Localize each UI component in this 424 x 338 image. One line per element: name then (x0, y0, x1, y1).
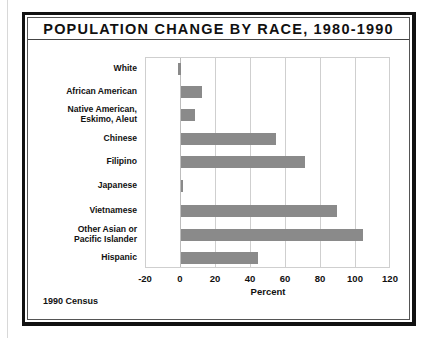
x-tick-label: 100 (347, 273, 363, 284)
category-label: Other Asian orPacific Islander (74, 224, 137, 244)
category-label: Vietnamese (89, 205, 137, 215)
bar (181, 252, 258, 264)
category-label: African American (66, 86, 137, 96)
bar (181, 229, 363, 241)
category-label: Filipino (106, 156, 137, 166)
bar (178, 63, 182, 75)
bar (181, 86, 202, 98)
page-edge-line (7, 0, 8, 338)
x-tick-label: -20 (138, 273, 152, 284)
category-label: Native American,Eskimo, Aleut (68, 104, 137, 124)
category-label: White (114, 63, 137, 73)
bar (181, 205, 337, 217)
x-tick-label: 20 (210, 273, 221, 284)
x-tick-label: 0 (177, 273, 182, 284)
category-label: Japanese (98, 180, 137, 190)
bar (181, 109, 195, 121)
plot-area (145, 57, 390, 268)
x-axis-label: Percent (251, 286, 286, 297)
bar (181, 133, 276, 145)
bar (181, 180, 183, 192)
x-tick-label: 120 (382, 273, 398, 284)
source-note: 1990 Census (43, 296, 98, 306)
chart-title: POPULATION CHANGE BY RACE, 1980-1990 (43, 21, 393, 37)
title-bar: POPULATION CHANGE BY RACE, 1980-1990 (28, 18, 409, 40)
bar (181, 156, 305, 168)
x-tick-label: 80 (315, 273, 326, 284)
category-label: Chinese (104, 133, 137, 143)
category-label: Hispanic (101, 252, 137, 262)
x-tick-label: 60 (280, 273, 291, 284)
x-tick-label: 40 (245, 273, 256, 284)
